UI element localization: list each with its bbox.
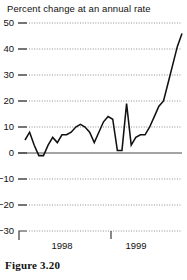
ytick-label-40: 40 — [3, 43, 14, 54]
gridlines-group — [29, 23, 182, 231]
ytick-label-50: 50 — [3, 17, 14, 28]
data-line-percent-change — [25, 33, 182, 155]
ytick-marks-group — [18, 23, 27, 205]
ytick-label-10: 10 — [3, 121, 14, 132]
xtick-label-1999: 1999 — [125, 240, 146, 251]
ytick-label--20: −20 — [0, 199, 14, 210]
ytick-label--10: −10 — [0, 173, 14, 184]
figure-caption: Figure 3.20 — [5, 259, 60, 271]
xtick-labels-group: 19981999 — [51, 240, 146, 251]
ytick-label--30: −30 — [0, 225, 14, 236]
chart-plot-area: 50403020100−10−20−30 19981999 — [0, 0, 187, 252]
ytick-label-20: 20 — [3, 95, 14, 106]
figure-3-20: Percent change at an annual rate 5040302… — [0, 0, 187, 280]
ytick-labels-group: 50403020100−10−20−30 — [0, 17, 14, 236]
x-axis-corner — [19, 231, 27, 240]
line-chart-svg: 50403020100−10−20−30 19981999 — [0, 0, 187, 252]
x-axis-group — [19, 231, 111, 240]
ytick-label-30: 30 — [3, 69, 14, 80]
data-series-group — [25, 33, 182, 155]
xtick-label-1998: 1998 — [51, 240, 72, 251]
ytick-label-0: 0 — [9, 147, 14, 158]
